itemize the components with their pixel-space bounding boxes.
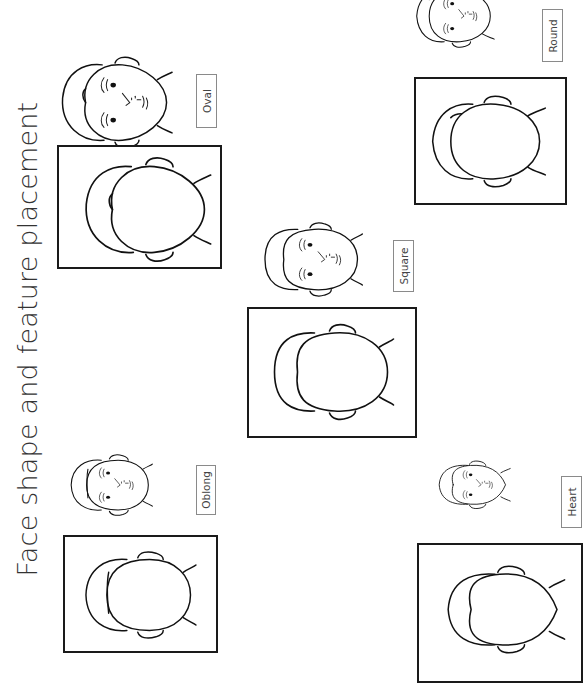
face-outline-box-oblong xyxy=(63,535,218,653)
face-outline-box-round xyxy=(414,77,567,205)
page-title: Face shape and feature placement xyxy=(12,102,43,577)
label-oblong-text: Oblong xyxy=(200,471,212,509)
face-with-features-icon xyxy=(66,450,176,540)
face-outline-icon xyxy=(267,317,402,427)
label-oblong: Oblong xyxy=(196,465,216,515)
face-outline-icon xyxy=(437,557,572,662)
label-oval: Oval xyxy=(196,74,217,128)
label-heart-text: Heart xyxy=(566,487,578,516)
face-with-features-icon xyxy=(255,217,385,317)
label-oval-text: Oval xyxy=(201,89,213,113)
label-heart: Heart xyxy=(561,476,582,528)
face-outline-icon xyxy=(424,89,554,194)
face-outline-box-heart xyxy=(417,543,583,683)
label-square-text: Square xyxy=(398,248,410,285)
face-with-features-icon xyxy=(428,456,538,536)
label-round-text: Round xyxy=(547,19,559,52)
label-round: Round xyxy=(542,9,563,62)
face-outline-icon xyxy=(73,545,208,645)
face-outline-box-oval xyxy=(57,145,222,269)
face-with-features-icon xyxy=(408,0,518,65)
label-square: Square xyxy=(393,240,414,292)
face-outline-box-square xyxy=(247,307,417,438)
face-outline-icon xyxy=(79,152,219,267)
